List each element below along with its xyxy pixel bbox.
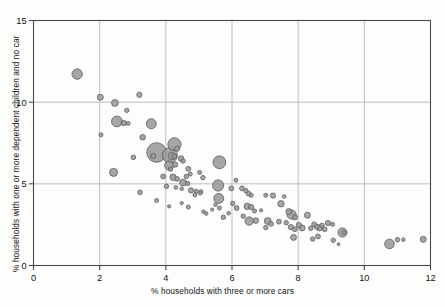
data-point-bubble xyxy=(264,193,268,197)
data-point-bubble xyxy=(229,186,234,191)
data-point-bubble xyxy=(131,155,136,160)
data-point-bubble xyxy=(211,208,214,211)
data-point-bubble xyxy=(253,209,257,213)
data-point-bubble xyxy=(234,206,239,211)
data-point-bubble xyxy=(331,238,335,242)
x-tick-label: 0 xyxy=(31,273,36,283)
x-tick-label: 6 xyxy=(229,273,234,283)
data-point-bubble xyxy=(72,69,82,79)
data-point-bubble xyxy=(180,202,183,205)
data-point-bubble xyxy=(309,226,313,230)
data-point-bubble xyxy=(402,238,406,242)
data-point-bubble xyxy=(201,175,205,179)
data-point-bubble xyxy=(245,217,253,225)
data-point-bubble xyxy=(269,221,274,226)
data-point-bubble xyxy=(146,119,156,129)
x-tick-label: 12 xyxy=(425,273,435,283)
data-point-bubble xyxy=(292,227,297,232)
data-point-bubble xyxy=(304,212,310,218)
data-point-bubble xyxy=(420,236,426,242)
data-point-bubble xyxy=(188,172,192,176)
data-point-bubble xyxy=(342,231,346,235)
data-point-bubble xyxy=(312,222,317,227)
data-point-bubble xyxy=(234,178,238,182)
data-point-bubble xyxy=(264,225,268,229)
data-point-bubble xyxy=(110,168,118,176)
data-point-bubble xyxy=(184,174,188,178)
data-points-group xyxy=(72,69,426,249)
data-point-bubble xyxy=(111,116,122,127)
data-point-bubble xyxy=(126,121,130,125)
data-point-bubble xyxy=(198,192,202,196)
y-tick-label: 5 xyxy=(21,179,26,189)
data-point-bubble xyxy=(140,134,146,140)
data-point-bubble xyxy=(213,180,224,191)
data-point-bubble xyxy=(175,177,180,182)
data-point-bubble xyxy=(325,220,330,225)
x-tick-label: 8 xyxy=(296,273,301,283)
data-point-bubble xyxy=(230,201,234,205)
data-point-bubble xyxy=(186,205,190,209)
gridlines-group xyxy=(34,21,431,266)
data-point-bubble xyxy=(185,181,189,185)
data-point-bubble xyxy=(172,154,177,159)
data-point-bubble xyxy=(260,209,263,212)
data-point-bubble xyxy=(284,221,288,225)
data-point-bubble xyxy=(174,146,179,151)
axis-ticks-group: 024681012051015 xyxy=(16,16,435,283)
data-point-bubble xyxy=(249,204,254,209)
scatter-plot-figure: 024681012051015 % households with one or… xyxy=(0,0,445,307)
data-point-bubble xyxy=(311,237,315,241)
data-point-bubble xyxy=(155,198,159,202)
data-point-bubble xyxy=(214,203,218,207)
data-point-bubble xyxy=(111,100,118,107)
data-point-bubble xyxy=(291,234,297,240)
y-axis-title: % households with one or more dependent … xyxy=(11,2,21,272)
y-tick-label: 0 xyxy=(21,261,26,271)
data-point-bubble xyxy=(173,162,178,167)
data-point-bubble xyxy=(186,166,191,171)
data-point-bubble xyxy=(181,159,185,163)
data-point-bubble xyxy=(193,193,197,197)
data-point-bubble xyxy=(121,120,126,125)
data-point-bubble xyxy=(138,190,143,195)
data-point-bubble xyxy=(331,222,335,226)
x-tick-label: 10 xyxy=(359,273,369,283)
data-point-bubble xyxy=(97,94,103,100)
data-point-bubble xyxy=(337,243,340,246)
data-point-bubble xyxy=(180,187,184,191)
data-point-bubble xyxy=(188,188,193,193)
data-point-bubble xyxy=(385,239,395,249)
data-point-bubble xyxy=(221,215,225,219)
data-point-bubble xyxy=(227,211,231,215)
data-point-bubble xyxy=(292,215,297,220)
data-point-bubble xyxy=(296,222,301,227)
data-point-bubble xyxy=(244,188,248,192)
data-point-bubble xyxy=(278,201,284,207)
data-point-bubble xyxy=(316,234,321,239)
data-point-bubble xyxy=(270,193,275,198)
data-point-bubble xyxy=(174,186,178,190)
data-point-bubble xyxy=(320,223,324,227)
data-point-bubble xyxy=(164,184,168,188)
data-point-bubble xyxy=(213,156,226,169)
data-point-bubble xyxy=(249,193,253,197)
data-point-bubble xyxy=(277,219,282,224)
data-point-bubble xyxy=(137,92,142,97)
data-point-bubble xyxy=(395,237,399,241)
x-tick-label: 4 xyxy=(163,273,168,283)
x-axis-title: % households with three or more cars xyxy=(0,286,445,296)
x-tick-label: 2 xyxy=(97,273,102,283)
data-point-bubble xyxy=(151,153,156,158)
plot-canvas: 024681012051015 xyxy=(0,0,445,307)
data-point-bubble xyxy=(214,194,224,204)
data-point-bubble xyxy=(253,218,259,224)
data-point-bubble xyxy=(204,212,208,216)
data-point-bubble xyxy=(168,167,172,171)
data-point-bubble xyxy=(286,209,292,215)
data-point-bubble xyxy=(217,206,221,210)
data-point-bubble xyxy=(161,174,166,179)
data-point-bubble xyxy=(241,214,245,218)
data-point-bubble xyxy=(282,195,286,199)
data-point-bubble xyxy=(99,133,103,137)
